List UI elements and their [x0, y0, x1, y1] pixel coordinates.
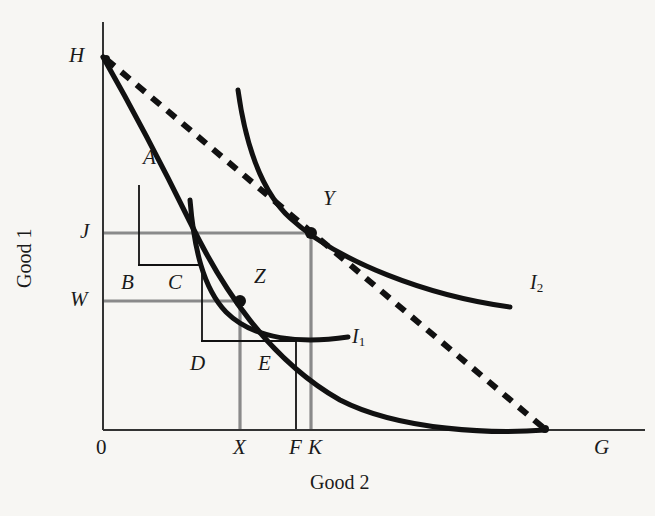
construction-lines: [138, 185, 297, 430]
x-tick-label-G: G: [594, 437, 609, 458]
y-tick-label-W: W: [70, 289, 88, 310]
curve-label-I2-text: I: [530, 271, 537, 293]
x-axis-title: Good 2: [310, 472, 369, 492]
curve-label-I2: I2: [530, 272, 543, 294]
point-label-Z: Z: [254, 266, 266, 287]
x-tick-label-origin: 0: [96, 437, 107, 458]
guide-lines: [103, 233, 311, 430]
point-marker-H: [102, 55, 110, 63]
y-tick-label-H: H: [69, 45, 84, 66]
point-marker-Z: [234, 295, 246, 307]
x-tick-label-K: K: [308, 437, 322, 458]
curve-label-I1-text: I: [352, 325, 359, 347]
y-axis-title: Good 1: [14, 229, 34, 288]
point-label-C: C: [168, 272, 182, 293]
y-tick-label-J: J: [80, 221, 89, 242]
point-label-E: E: [258, 353, 271, 374]
x-tick-label-X: X: [233, 437, 246, 458]
point-label-A: A: [143, 147, 156, 168]
indifference-curve-2: [238, 90, 510, 307]
x-tick-label-F: F: [289, 437, 302, 458]
curve-label-I2-subscript: 2: [537, 280, 544, 295]
axes: [103, 22, 645, 430]
curve-label-I1: I1: [352, 326, 365, 348]
point-marker-G: [541, 425, 549, 433]
point-label-D: D: [190, 353, 205, 374]
point-label-B: B: [121, 272, 134, 293]
curve-label-I1-subscript: 1: [359, 334, 366, 349]
indifference-curve-2-path: [238, 90, 510, 307]
point-marker-Y: [305, 227, 317, 239]
point-label-Y: Y: [323, 188, 335, 209]
